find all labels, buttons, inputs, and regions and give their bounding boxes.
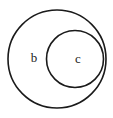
set-label-b: b <box>31 50 38 65</box>
set-label-c: c <box>75 51 81 66</box>
euler-diagram-canvas: b c <box>0 0 113 118</box>
euler-diagram-container: b c <box>0 0 113 118</box>
